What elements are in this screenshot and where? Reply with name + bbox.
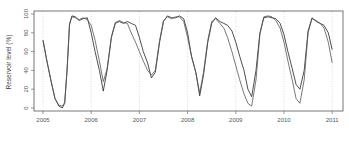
y-tick-label: 20 <box>23 85 29 92</box>
x-axis: 2005200620072008200920102011 <box>36 111 339 123</box>
reservoir-level-chart: 020406080100 200520062007200820092010201… <box>0 0 349 167</box>
y-tick-label: 40 <box>23 66 29 73</box>
x-tick-label: 2007 <box>133 117 147 123</box>
y-tick-label: 0 <box>23 106 29 110</box>
y-tick-label: 60 <box>23 48 29 55</box>
x-tick-label: 2005 <box>36 117 50 123</box>
plot-frame <box>34 11 343 111</box>
x-tick-label: 2008 <box>181 117 195 123</box>
y-tick-label: 80 <box>23 29 29 36</box>
x-tick-label: 2010 <box>277 117 291 123</box>
y-axis-title: Reservoir level (%) <box>5 35 13 90</box>
y-axis: 020406080100 <box>23 8 34 109</box>
vertical-gridlines <box>43 11 332 111</box>
y-tick-label: 100 <box>23 8 29 19</box>
x-tick-label: 2009 <box>229 117 243 123</box>
x-tick-label: 2011 <box>326 117 340 123</box>
x-tick-label: 2006 <box>85 117 99 123</box>
